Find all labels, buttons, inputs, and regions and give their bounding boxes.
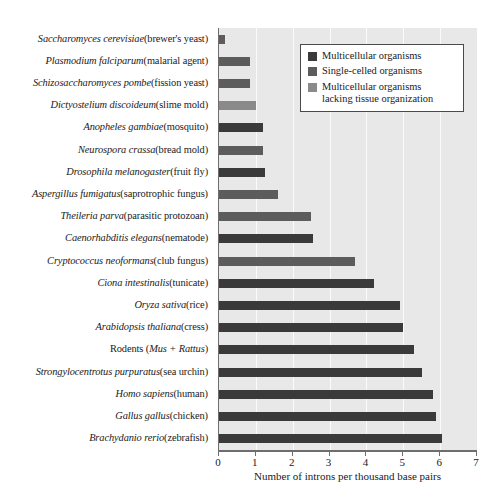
bar	[219, 257, 355, 266]
bar	[219, 412, 436, 421]
category-label: Theileria parva (parasitic protozoan)	[0, 206, 213, 228]
category-label: Aspergillus fumigatus (saprotrophic fung…	[0, 183, 213, 205]
bar	[219, 279, 374, 288]
bar	[219, 345, 414, 354]
bar	[219, 368, 422, 377]
legend-item: Multicellular organisms lacking tissue o…	[308, 81, 456, 106]
bar	[219, 190, 278, 199]
x-tick-label: 6	[436, 456, 442, 468]
bar	[219, 168, 265, 177]
bar-row	[219, 405, 477, 427]
x-axis-label: Number of introns per thousand base pair…	[218, 470, 477, 482]
bar-row	[219, 206, 477, 228]
category-label: Neurospora crassa (bread mold)	[0, 139, 213, 161]
bar-row	[219, 294, 477, 316]
bar	[219, 234, 313, 243]
category-label: Arabidopsis thaliana (cress)	[0, 317, 213, 339]
bar	[219, 146, 263, 155]
bar-row	[219, 183, 477, 205]
x-tick-label: 5	[400, 456, 406, 468]
x-tick-label: 2	[289, 456, 295, 468]
bar	[219, 212, 311, 221]
x-tick-label: 7	[473, 456, 479, 468]
chart-legend: Multicellular organismsSingle-celled org…	[300, 44, 464, 112]
category-label: Schizosaccharomyces pombe (fission yeast…	[0, 72, 213, 94]
bar	[219, 35, 225, 44]
bar-row	[219, 428, 477, 450]
category-label: Caenorhabditis elegans (nematode)	[0, 228, 213, 250]
bar-row	[219, 117, 477, 139]
x-tick-label: 3	[326, 456, 332, 468]
bar-row	[219, 272, 477, 294]
bar	[219, 323, 403, 332]
category-label: Strongylocentrotus purpuratus (sea urchi…	[0, 361, 213, 383]
category-label: Gallus gallus (chicken)	[0, 405, 213, 427]
category-label: Drosophila melanogaster (fruit fly)	[0, 161, 213, 183]
bar	[219, 123, 263, 132]
legend-swatch-icon	[308, 52, 317, 61]
bar-row	[219, 339, 477, 361]
category-label: Oryza sativa (rice)	[0, 294, 213, 316]
category-label: Dictyostelium discoideum (slime mold)	[0, 95, 213, 117]
x-tick-label: 0	[215, 456, 221, 468]
legend-label: Multicellular organisms lacking tissue o…	[322, 81, 433, 106]
category-label: Homo sapiens (human)	[0, 383, 213, 405]
bar	[219, 57, 250, 66]
legend-label: Single-celled organisms	[322, 65, 422, 77]
bar-row	[219, 361, 477, 383]
bar	[219, 79, 250, 88]
bar	[219, 301, 400, 310]
legend-swatch-icon	[308, 67, 317, 76]
category-label: Plasmodium falciparum (malarial agent)	[0, 50, 213, 72]
category-label: Saccharomyces cerevisiae (brewer's yeast…	[0, 28, 213, 50]
category-label: Rodents (Mus + Rattus)	[0, 339, 213, 361]
category-label: Brachydanio rerio (zebrafish)	[0, 428, 213, 450]
chart-figure: Saccharomyces cerevisiae (brewer's yeast…	[0, 0, 495, 493]
legend-label: Multicellular organisms	[322, 50, 421, 62]
legend-item: Multicellular organisms	[308, 50, 456, 62]
bar	[219, 434, 442, 443]
legend-item: Single-celled organisms	[308, 65, 456, 77]
category-label: Cryptococcus neoformans (club fungus)	[0, 250, 213, 272]
bar	[219, 390, 433, 399]
category-label: Anopheles gambiae (mosquito)	[0, 117, 213, 139]
bar	[219, 101, 256, 110]
legend-swatch-icon	[308, 83, 317, 92]
bar-row	[219, 228, 477, 250]
category-label-column: Saccharomyces cerevisiae (brewer's yeast…	[0, 28, 213, 450]
bar-row	[219, 161, 477, 183]
bar-row	[219, 139, 477, 161]
bar-row	[219, 383, 477, 405]
x-axis-line	[218, 450, 477, 452]
x-tick-label: 1	[252, 456, 258, 468]
bar-row	[219, 317, 477, 339]
x-tick-label: 4	[363, 456, 369, 468]
category-label: Ciona intestinalis (tunicate)	[0, 272, 213, 294]
bar-row	[219, 250, 477, 272]
